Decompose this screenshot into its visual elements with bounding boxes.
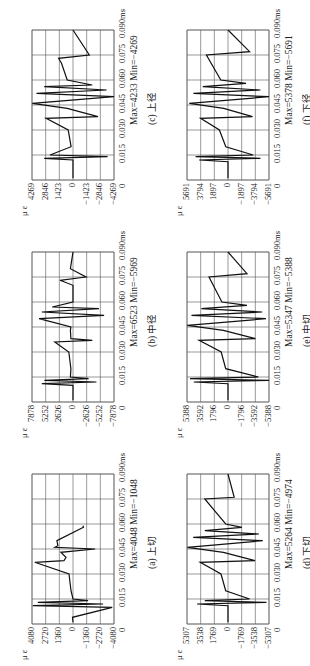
strain-line bbox=[39, 252, 104, 400]
y-tick-label: 3794 bbox=[196, 183, 205, 213]
max-min-stats: Max=4233 Min=−4269 bbox=[129, 35, 139, 125]
x-tick-label: 0.090ms bbox=[117, 231, 127, 260]
strain-line bbox=[187, 474, 266, 622]
x-tick-label: 0.075 bbox=[117, 488, 127, 507]
chart-panel-b: μ ε7878525226260−2626−5252−787800.0150.0… bbox=[0, 222, 155, 444]
y-tick-label: 1360 bbox=[54, 627, 63, 657]
y-tick-label: −2846 bbox=[95, 183, 104, 213]
y-tick-label: 1769 bbox=[209, 627, 218, 657]
x-tick-label: 0.045 bbox=[272, 538, 282, 557]
y-tick-label: 7878 bbox=[27, 405, 36, 435]
x-tick-label: 0.060 bbox=[272, 69, 282, 88]
y-tick-label: 3538 bbox=[196, 627, 205, 657]
y-tick-label: −3592 bbox=[250, 405, 259, 435]
max-min-stats: Max=5264 Min=−4974 bbox=[284, 479, 294, 569]
y-tick-label: 5388 bbox=[182, 405, 191, 435]
y-tick-label: 1796 bbox=[209, 405, 218, 435]
max-min-stats: Max=5347 Min=−5388 bbox=[284, 257, 294, 347]
x-tick-label: 0.075 bbox=[117, 44, 127, 63]
y-tick-label: 0 bbox=[223, 627, 232, 657]
chart-panel-e: μ ε5388359217960−1796−3592−538800.0150.0… bbox=[155, 222, 310, 444]
x-tick-label: 0.060 bbox=[117, 513, 127, 532]
chart-panel-f: μ ε5691379418970−1897−3794−569100.0150.0… bbox=[155, 0, 310, 222]
y-tick-label: 0 bbox=[223, 405, 232, 435]
y-tick-label: −1423 bbox=[82, 183, 91, 213]
x-tick-label: 0.075 bbox=[272, 44, 282, 63]
y-tick-label: 0 bbox=[68, 627, 77, 657]
x-tick-label: 0.075 bbox=[272, 488, 282, 507]
y-tick-label: 2846 bbox=[41, 183, 50, 213]
y-tick-label: 2720 bbox=[41, 627, 50, 657]
x-tick-label: 0.090ms bbox=[272, 231, 282, 260]
y-tick-label: −2626 bbox=[82, 405, 91, 435]
x-tick-label: 0.015 bbox=[117, 366, 127, 385]
x-tick-label: 0.045 bbox=[272, 316, 282, 335]
y-tick-label: −1360 bbox=[82, 627, 91, 657]
x-tick-label: 0.030 bbox=[117, 341, 127, 360]
x-tick-label: 0.030 bbox=[272, 341, 282, 360]
subfigure-caption: (d) 下切 bbox=[299, 536, 310, 569]
y-tick-label: −1769 bbox=[237, 627, 246, 657]
x-tick-label: 0 bbox=[272, 628, 282, 632]
x-tick-label: 0.090ms bbox=[272, 9, 282, 38]
x-tick-label: 0.060 bbox=[272, 513, 282, 532]
x-tick-label: 0.090ms bbox=[272, 453, 282, 482]
chart-panel-d: μ ε5307353817690−1769−3538−530700.0150.0… bbox=[155, 444, 310, 666]
chart-panel-a: μ ε4080272013600−1360−2720−408000.0150.0… bbox=[0, 444, 155, 666]
y-tick-label: 4080 bbox=[27, 627, 36, 657]
x-tick-label: 0.015 bbox=[272, 144, 282, 163]
x-tick-label: 0.075 bbox=[272, 266, 282, 285]
y-tick-label: 5307 bbox=[182, 627, 191, 657]
x-tick-label: 0.030 bbox=[117, 563, 127, 582]
y-tick-label: 5691 bbox=[182, 183, 191, 213]
x-tick-label: 0.030 bbox=[272, 563, 282, 582]
x-tick-label: 0.090ms bbox=[117, 9, 127, 38]
y-tick-label: 0 bbox=[68, 405, 77, 435]
x-tick-label: 0.030 bbox=[117, 119, 127, 138]
x-tick-label: 0.090ms bbox=[117, 453, 127, 482]
y-tick-label: 3592 bbox=[196, 405, 205, 435]
x-tick-label: 0.015 bbox=[117, 588, 127, 607]
subfigure-caption: (f) 下径 bbox=[299, 93, 310, 125]
x-tick-label: 0 bbox=[272, 406, 282, 410]
x-tick-label: 0.015 bbox=[117, 144, 127, 163]
max-min-stats: Max=5378 Min=−5691 bbox=[284, 35, 294, 125]
x-tick-label: 0 bbox=[272, 184, 282, 188]
y-tick-label: 5252 bbox=[41, 405, 50, 435]
x-tick-label: 0.075 bbox=[117, 266, 127, 285]
x-tick-label: 0.060 bbox=[117, 291, 127, 310]
x-tick-label: 0 bbox=[117, 184, 127, 188]
x-tick-label: 0.060 bbox=[117, 69, 127, 88]
x-tick-label: 0.045 bbox=[117, 316, 127, 335]
chart-panel-c: μ ε4269284614230−1423−2846−426900.0150.0… bbox=[0, 0, 155, 222]
y-tick-label: −2720 bbox=[95, 627, 104, 657]
figure-stage: μ ε4080272013600−1360−2720−408000.0150.0… bbox=[0, 0, 310, 666]
x-tick-label: 0.045 bbox=[117, 538, 127, 557]
y-tick-label: 1897 bbox=[209, 183, 218, 213]
y-tick-label: −1897 bbox=[237, 183, 246, 213]
y-tick-label: −5252 bbox=[95, 405, 104, 435]
max-min-stats: Max=6523 Min=−5969 bbox=[129, 257, 139, 347]
y-tick-label: −3794 bbox=[250, 183, 259, 213]
x-tick-label: 0.045 bbox=[117, 94, 127, 113]
x-tick-label: 0.030 bbox=[272, 119, 282, 138]
subfigure-caption: (e) 中切 bbox=[299, 314, 310, 347]
y-tick-label: 2626 bbox=[54, 405, 63, 435]
y-tick-label: −3538 bbox=[250, 627, 259, 657]
y-tick-label: −1796 bbox=[237, 405, 246, 435]
y-tick-label: 0 bbox=[68, 183, 77, 213]
x-tick-label: 0 bbox=[117, 628, 127, 632]
max-min-stats: Max=4048 Min=−1048 bbox=[129, 479, 139, 569]
x-tick-label: 0.015 bbox=[272, 588, 282, 607]
x-tick-label: 0.060 bbox=[272, 291, 282, 310]
strain-line bbox=[189, 30, 269, 178]
x-tick-label: 0 bbox=[117, 406, 127, 410]
y-tick-label: 0 bbox=[223, 183, 232, 213]
y-tick-label: 4269 bbox=[27, 183, 36, 213]
x-tick-label: 0.045 bbox=[272, 94, 282, 113]
x-tick-label: 0.015 bbox=[272, 366, 282, 385]
y-tick-label: 1423 bbox=[54, 183, 63, 213]
